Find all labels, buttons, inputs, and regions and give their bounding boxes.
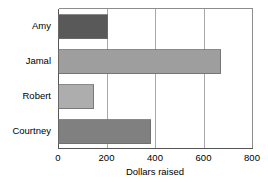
- category-label-robert: Robert: [22, 90, 51, 101]
- xtick-label-0: 0: [55, 152, 60, 163]
- chart-canvas: AmyJamalRobertCourtney0200400600800Dolla…: [0, 0, 268, 182]
- x-axis-title: Dollars raised: [126, 166, 184, 177]
- bar-courtney[interactable]: [59, 120, 151, 144]
- bar-robert[interactable]: [59, 85, 94, 109]
- xtick-label-800: 800: [244, 152, 260, 163]
- bar-chart: AmyJamalRobertCourtney0200400600800Dolla…: [0, 0, 268, 182]
- bar-jamal[interactable]: [59, 50, 221, 74]
- category-label-courtney: Courtney: [12, 125, 51, 136]
- xtick-label-400: 400: [147, 152, 163, 163]
- bar-amy[interactable]: [59, 15, 108, 39]
- category-label-amy: Amy: [32, 20, 51, 31]
- category-label-jamal: Jamal: [26, 55, 51, 66]
- xtick-label-200: 200: [99, 152, 115, 163]
- xtick-label-600: 600: [196, 152, 212, 163]
